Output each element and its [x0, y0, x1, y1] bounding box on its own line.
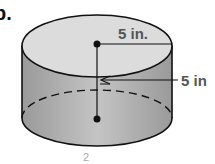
radius-label: 5 in. [118, 25, 148, 42]
footer-fragment: 2 [83, 151, 89, 163]
height-label: 5 in [181, 72, 207, 89]
top-center-dot [94, 41, 101, 48]
bottom-center-dot [94, 116, 101, 123]
